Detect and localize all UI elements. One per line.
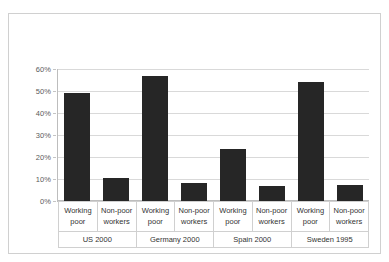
bar: [259, 186, 285, 201]
y-axis-tick-mark: [53, 179, 56, 180]
category-label-cell: Workingpoor: [136, 201, 175, 231]
y-axis-tick-label: 10%: [36, 175, 51, 184]
bar: [64, 93, 90, 201]
bar: [181, 183, 207, 201]
category-label-cell: Workingpoor: [213, 201, 252, 231]
y-axis-tick-label: 40%: [36, 109, 51, 118]
y-axis-tick-mark: [53, 91, 56, 92]
category-label-cell: Non-poorworkers: [97, 201, 136, 231]
plot-area: [58, 69, 369, 201]
plot-wrapper: 0%10%20%30%40%50%60% WorkingpoorNon-poor…: [9, 14, 382, 255]
bar: [220, 149, 246, 201]
category-label-cell: Non-poorworkers: [252, 201, 291, 231]
bar: [103, 178, 129, 201]
category-label-cell: Non-poorworkers: [174, 201, 213, 231]
country-label-cell: Sweden 1995: [291, 231, 370, 248]
y-axis: 0%10%20%30%40%50%60%: [9, 14, 56, 255]
country-label-cell: Spain 2000: [213, 231, 291, 248]
country-label-cell: Germany 2000: [136, 231, 214, 248]
category-label-table: WorkingpoorNon-poorworkersWorkingpoorNon…: [58, 201, 369, 248]
category-label-cell: Workingpoor: [58, 201, 97, 231]
category-label-cell: Non-poorworkers: [329, 201, 369, 231]
y-axis-tick-mark: [53, 113, 56, 114]
bar: [337, 185, 363, 202]
y-axis-tick-label: 0%: [40, 197, 51, 206]
y-axis-tick-label: 50%: [36, 87, 51, 96]
category-row: WorkingpoorNon-poorworkersWorkingpoorNon…: [58, 201, 369, 231]
y-axis-tick-mark: [53, 135, 56, 136]
y-axis-tick-label: 30%: [36, 131, 51, 140]
bar: [142, 76, 168, 201]
chart-container: 0%10%20%30%40%50%60% WorkingpoorNon-poor…: [8, 13, 381, 254]
gridline: [58, 69, 369, 70]
y-axis-tick-mark: [53, 157, 56, 158]
y-axis-tick-mark: [53, 201, 56, 202]
y-axis-tick-label: 20%: [36, 153, 51, 162]
bar: [298, 82, 324, 201]
y-axis-tick-label: 60%: [36, 65, 51, 74]
category-label-cell: Workingpoor: [291, 201, 330, 231]
clipped-caption-strip: [0, 0, 389, 7]
y-axis-tick-mark: [53, 69, 56, 70]
country-row: US 2000Germany 2000Spain 2000Sweden 1995: [58, 231, 369, 248]
country-label-cell: US 2000: [58, 231, 136, 248]
